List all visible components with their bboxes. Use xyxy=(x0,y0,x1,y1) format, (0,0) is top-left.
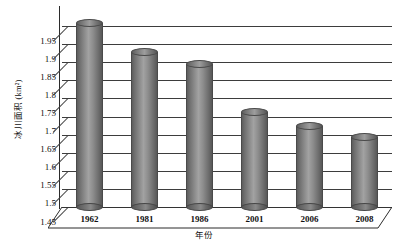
bar-series xyxy=(62,8,392,207)
x-axis-title: 年份 xyxy=(0,228,408,240)
y-axis-tick-label: 1.7 xyxy=(20,127,56,136)
x-axis-tick-label: 1981 xyxy=(118,214,172,225)
gridline xyxy=(62,207,392,208)
x-axis-tick-label: 2006 xyxy=(283,214,337,225)
bar-bottom-ellipse xyxy=(131,203,158,211)
bar-body xyxy=(76,23,103,207)
x-axis-tick-label: 1962 xyxy=(63,214,117,225)
y-axis-tick-label: 1.75 xyxy=(20,109,56,118)
bar-bottom-ellipse xyxy=(241,203,268,211)
y-axis-tick-label: 1.95 xyxy=(20,37,56,46)
y-axis-tick-label: 1.65 xyxy=(20,145,56,154)
chart-root: 冰川面积 (km²) 1.951.91.851.81.751.71.651.61… xyxy=(0,0,408,247)
bar xyxy=(241,108,268,208)
y-axis-tick-label: 1.6 xyxy=(20,163,56,172)
bar-body xyxy=(351,137,378,207)
x-axis-tick-label: 2001 xyxy=(228,214,282,225)
y-axis-tick-labels: 1.951.91.851.81.751.71.651.61.551.51.45 xyxy=(20,0,56,247)
bar xyxy=(76,19,103,207)
bar-body xyxy=(241,112,268,208)
y-axis-tick-label: 1.55 xyxy=(20,181,56,190)
bar-bottom-ellipse xyxy=(186,203,213,211)
bar-bottom-ellipse xyxy=(351,203,378,211)
bar-top-ellipse xyxy=(241,108,268,116)
y-axis-tick-label: 1.85 xyxy=(20,73,56,82)
bar-top-ellipse xyxy=(351,133,378,141)
bar xyxy=(351,133,378,207)
x-axis-tick-label: 2008 xyxy=(338,214,392,225)
y-axis-tick-label: 1.8 xyxy=(20,91,56,100)
bar-top-ellipse xyxy=(76,19,103,27)
x-axis-tick-label: 1986 xyxy=(173,214,227,225)
bar-body xyxy=(131,52,158,207)
y-axis-tick-label: 1.9 xyxy=(20,55,56,64)
bar-top-ellipse xyxy=(131,48,158,56)
plot-area xyxy=(62,8,392,207)
bar xyxy=(296,122,323,207)
bar-body xyxy=(186,64,213,207)
bar-body xyxy=(296,126,323,207)
y-axis-tick-label: 1.45 xyxy=(20,218,56,227)
bar xyxy=(186,60,213,207)
y-axis-tick-label: 1.5 xyxy=(20,199,56,208)
bar-bottom-ellipse xyxy=(76,203,103,211)
bar-top-ellipse xyxy=(296,122,323,130)
bar-bottom-ellipse xyxy=(296,203,323,211)
bar xyxy=(131,48,158,207)
